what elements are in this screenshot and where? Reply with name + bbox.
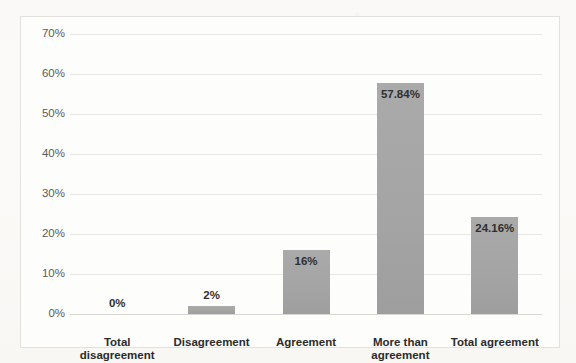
bar-3 [377, 83, 424, 314]
gridline-30 [70, 194, 542, 195]
bar-label-1: 2% [172, 289, 252, 301]
x-category-label-1: Disagreement [166, 336, 256, 349]
y-tick-label: 30% [25, 187, 65, 199]
y-tick-label: 60% [25, 67, 65, 79]
y-tick-label: 0% [25, 307, 65, 319]
bar-label-4: 24.16% [455, 222, 535, 234]
gridline-70 [70, 34, 542, 35]
y-tick-label: 50% [25, 107, 65, 119]
bar-label-3: 57.84% [360, 88, 440, 100]
gridline-50 [70, 114, 542, 115]
chart-frame: 0%10%20%30%40%50%60%70% 0%2%16%57.84%24.… [20, 16, 560, 348]
y-tick-label: 10% [25, 267, 65, 279]
x-category-label-3: More than agreement [355, 336, 445, 362]
gridline-0 [70, 314, 542, 315]
bar-1 [188, 306, 235, 314]
x-category-label-4: Total agreement [450, 336, 540, 349]
plot-area: 0%2%16%57.84%24.16% [70, 34, 542, 314]
x-category-label-2: Agreement [261, 336, 351, 349]
y-tick-label: 40% [25, 147, 65, 159]
faded-title-fragment [150, 0, 450, 12]
gridline-60 [70, 74, 542, 75]
gridline-40 [70, 154, 542, 155]
y-tick-label: 70% [25, 27, 65, 39]
bar-label-0: 0% [77, 297, 157, 309]
y-tick-label: 20% [25, 227, 65, 239]
x-category-label-0: Total disagreement [72, 336, 162, 362]
bar-label-2: 16% [266, 255, 346, 267]
y-axis-tick-labels: 0%10%20%30%40%50%60%70% [21, 34, 65, 314]
